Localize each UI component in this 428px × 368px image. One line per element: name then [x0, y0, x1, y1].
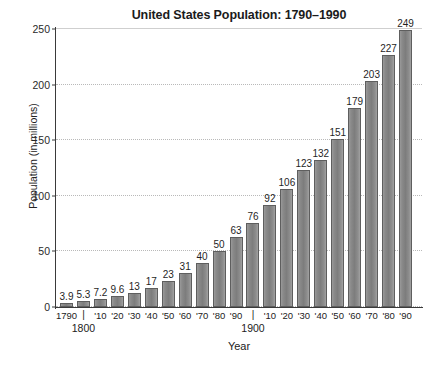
bar-value-label: 203 [363, 69, 380, 80]
chart-title: United States Population: 1790–1990 [56, 8, 422, 22]
y-tick-mark [52, 29, 56, 30]
bar [145, 288, 158, 307]
bar [297, 170, 310, 307]
bar [77, 301, 90, 307]
bar-value-label: 17 [146, 276, 157, 287]
bar-value-label: 13 [129, 281, 140, 292]
bar [314, 160, 327, 307]
y-tick-mark [52, 140, 56, 141]
x-tick-label: '90 [399, 310, 411, 321]
bar [94, 299, 107, 307]
x-tick-label: '30 [128, 310, 140, 321]
bar-group: 50 [213, 29, 226, 307]
x-tick-label: | [82, 309, 85, 320]
bar [263, 205, 276, 307]
bar-group: 76 [246, 29, 259, 307]
x-tick-label: '80 [382, 310, 394, 321]
x-tick-label: '90 [230, 310, 242, 321]
y-tick-label: 200 [32, 79, 50, 91]
bar-group: 23 [162, 29, 175, 307]
bar-value-label: 40 [197, 251, 208, 262]
x-tick-label: '80 [213, 310, 225, 321]
x-tick-label: '50 [332, 310, 344, 321]
bar-value-label: 76 [247, 211, 258, 222]
bar-group: 203 [365, 29, 378, 307]
bar [196, 263, 209, 307]
bar [128, 293, 141, 307]
bar-group: 151 [331, 29, 344, 307]
bar [382, 55, 395, 307]
bar [280, 189, 293, 307]
plot-area: 050100150200250 3.95.37.29.6131723314050… [56, 29, 422, 307]
bar-value-label: 151 [329, 127, 346, 138]
bar [365, 81, 378, 307]
x-tick-sublabel: 1900 [241, 322, 264, 334]
bar-value-label: 132 [312, 148, 329, 159]
bar-group: 31 [179, 29, 192, 307]
bar-value-label: 23 [163, 269, 174, 280]
x-axis-line [55, 307, 423, 308]
chart-figure: United States Population: 1790–1990 Popu… [0, 0, 428, 368]
bar [179, 273, 192, 307]
bar-group: 63 [230, 29, 243, 307]
y-tick-mark [52, 195, 56, 196]
x-tick-label: '40 [145, 310, 157, 321]
y-tick-label: 100 [32, 190, 50, 202]
y-tick-label: 0 [44, 301, 50, 313]
x-tick-label: '60 [348, 310, 360, 321]
x-tick-label: '40 [315, 310, 327, 321]
bar [348, 108, 361, 307]
bar-group: 13 [128, 29, 141, 307]
x-axis-title: Year [56, 340, 422, 352]
bar [162, 281, 175, 307]
bar-group: 40 [196, 29, 209, 307]
bar-group: 92 [263, 29, 276, 307]
x-tick-label: 1790 [56, 310, 77, 321]
x-tick-label: '60 [179, 310, 191, 321]
x-tick-label: '70 [365, 310, 377, 321]
y-tick-label: 250 [32, 23, 50, 35]
bar [213, 251, 226, 307]
y-tick-label: 150 [32, 134, 50, 146]
bar-group: 9.6 [111, 29, 124, 307]
bar [331, 139, 344, 307]
bar-value-label: 249 [397, 18, 414, 29]
bar-group: 123 [297, 29, 310, 307]
bar-group: 227 [382, 29, 395, 307]
y-tick-mark [52, 307, 56, 308]
bar-group: 3.9 [60, 29, 73, 307]
x-tick-label: '70 [196, 310, 208, 321]
y-tick-label: 50 [38, 245, 50, 257]
bar-group: 106 [280, 29, 293, 307]
x-tick-label: '10 [264, 310, 276, 321]
bar [60, 303, 73, 307]
bar-group: 17 [145, 29, 158, 307]
bar-group: 249 [399, 29, 412, 307]
bar-value-label: 227 [380, 43, 397, 54]
x-tick-label: '20 [281, 310, 293, 321]
bar-value-label: 9.6 [110, 284, 124, 295]
bar-value-label: 63 [230, 225, 241, 236]
y-tick-mark [52, 251, 56, 252]
x-tick-label: '10 [94, 310, 106, 321]
bar-value-label: 179 [346, 96, 363, 107]
bar [111, 296, 124, 307]
bar-value-label: 7.2 [93, 287, 107, 298]
x-tick-label: '30 [298, 310, 310, 321]
x-tick-label: '50 [162, 310, 174, 321]
x-tick-label: | [252, 309, 255, 320]
bar-value-label: 92 [264, 193, 275, 204]
bar-value-label: 106 [279, 177, 296, 188]
bar-value-label: 123 [295, 158, 312, 169]
bar-value-label: 3.9 [60, 291, 74, 302]
bar [399, 30, 412, 307]
bar [230, 237, 243, 307]
bar-group: 132 [314, 29, 327, 307]
x-tick-sublabel: 1800 [72, 322, 95, 334]
bar-value-label: 5.3 [76, 289, 90, 300]
bar-value-label: 50 [214, 239, 225, 250]
bar [246, 223, 259, 308]
x-tick-label: '20 [111, 310, 123, 321]
bar-group: 179 [348, 29, 361, 307]
bar-group: 7.2 [94, 29, 107, 307]
